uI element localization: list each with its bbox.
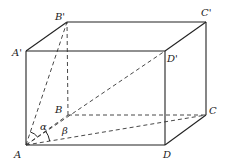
angle-beta-arc [46,131,50,141]
label-C: C [209,105,217,116]
label-alpha: α [40,121,47,132]
edge-D-C [165,115,206,145]
label-B: B [54,104,62,115]
diagonal-A-C [26,115,206,145]
angle-alpha-arc [30,132,37,137]
label-D: D [162,149,171,160]
prism-diagram: A B C D A' B' C' D' α β [0,0,229,168]
label-A-prime: A' [11,47,22,58]
label-B-prime: B' [54,11,65,22]
edge-B-B1 [67,22,68,115]
label-C-prime: C' [201,7,211,18]
edge-A1-B1 [26,22,67,51]
solid-edges [26,22,206,145]
label-D-prime: D' [166,53,178,64]
label-A: A [13,149,21,160]
edge-D1-C1 [165,22,206,51]
label-beta: β [61,125,68,136]
diagonal-A-D1 [26,51,165,145]
